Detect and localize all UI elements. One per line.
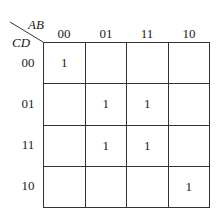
kmap-cell (126, 166, 168, 207)
kmap-cell: 1 (168, 166, 210, 207)
kmap-cell (168, 83, 210, 124)
column-header: 11 (126, 26, 168, 42)
kmap-cell (168, 42, 210, 83)
kmap-cell: 1 (85, 83, 127, 124)
kmap-cell (43, 83, 85, 124)
kmap-cell (85, 166, 127, 207)
column-variable-label: AB (28, 17, 44, 33)
kmap-cell (85, 42, 127, 83)
kmap-cell: 1 (43, 42, 85, 83)
karnaugh-map-grid: 1 1 1 1 1 1 (43, 42, 210, 208)
column-header: 00 (43, 26, 85, 42)
column-header: 01 (85, 26, 127, 42)
kmap-cell: 1 (126, 125, 168, 166)
row-header: 10 (18, 178, 38, 194)
column-header: 10 (168, 26, 210, 42)
row-header: 11 (18, 137, 38, 153)
kmap-cell: 1 (85, 125, 127, 166)
row-variable-label: CD (12, 35, 30, 51)
row-header: 01 (18, 96, 38, 112)
kmap-cell (126, 42, 168, 83)
kmap-cell (43, 166, 85, 207)
kmap-cell: 1 (126, 83, 168, 124)
kmap-cell (43, 125, 85, 166)
row-header: 00 (18, 55, 38, 71)
kmap-cell (168, 125, 210, 166)
